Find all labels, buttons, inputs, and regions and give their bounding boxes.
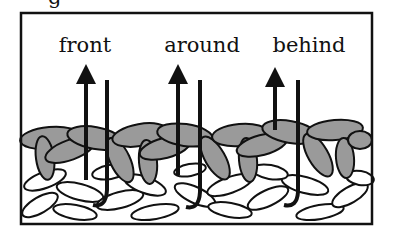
label-behind: behind bbox=[272, 33, 345, 57]
arrow-up-icon bbox=[76, 64, 96, 84]
arrow-up-icon bbox=[168, 64, 188, 84]
stitch-diagram: g bbox=[0, 0, 393, 239]
label-around: around bbox=[164, 33, 240, 57]
caption-fragment: g bbox=[48, 0, 61, 9]
arrow-up-icon bbox=[265, 67, 285, 87]
label-front: front bbox=[59, 33, 112, 57]
